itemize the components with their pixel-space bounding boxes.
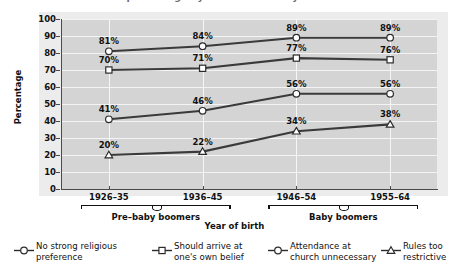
- data-point-label: 89%: [373, 23, 407, 33]
- legend-circle-icon: [268, 241, 290, 252]
- legend-circle-icon: [14, 241, 36, 252]
- data-point-label: 56%: [279, 79, 313, 89]
- legend-label: Attendance atchurch unnecessary: [290, 241, 376, 262]
- bracket-cap-right: [229, 205, 230, 209]
- data-point-marker: [159, 247, 165, 253]
- legend-item[interactable]: Rules toorestrictive: [381, 241, 446, 262]
- series-line: [109, 94, 390, 120]
- y-tick-mark: [56, 19, 60, 20]
- y-tick-mark: [56, 70, 60, 71]
- legend-label: Should arrive atone's own belief: [174, 241, 244, 262]
- y-tick-mark: [56, 53, 60, 54]
- data-point-marker: [387, 34, 394, 41]
- data-point-marker: [200, 65, 206, 71]
- data-point-marker: [387, 91, 394, 98]
- legend-item[interactable]: Attendance atchurch unnecessary: [268, 241, 376, 262]
- data-point-label: 76%: [373, 45, 407, 55]
- bracket-cap-left: [81, 205, 82, 209]
- legend-label-line2: one's own belief: [174, 252, 244, 263]
- data-point-marker: [199, 43, 206, 50]
- legend-square-icon: [152, 241, 174, 252]
- data-point-label: 71%: [186, 53, 220, 63]
- data-point-marker: [387, 57, 393, 63]
- series-2: [106, 55, 393, 73]
- legend-label: No strong religiouspreference: [36, 241, 117, 262]
- series-3: [106, 91, 394, 123]
- series-4: [105, 121, 394, 158]
- data-point-label: 84%: [186, 31, 220, 41]
- legend-label-line1: Should arrive at: [174, 241, 244, 252]
- series-line: [109, 124, 390, 155]
- y-tick-mark: [56, 172, 60, 173]
- data-point-label: 77%: [279, 43, 313, 53]
- legend-label: Rules toorestrictive: [403, 241, 446, 262]
- x-axis-title: Year of birth: [0, 221, 469, 231]
- data-point-label: 38%: [373, 109, 407, 119]
- data-point-label: 22%: [186, 137, 220, 147]
- data-point-label: 34%: [279, 116, 313, 126]
- data-point-marker: [293, 91, 300, 98]
- data-point-label: 41%: [92, 104, 126, 114]
- bracket-cap-right: [417, 205, 418, 209]
- data-point-marker: [293, 34, 300, 41]
- legend-label-line1: Attendance at: [290, 241, 376, 252]
- y-tick-mark: [56, 36, 60, 37]
- data-point-marker: [293, 55, 299, 61]
- chart-legend: No strong religiouspreferenceShould arri…: [0, 238, 469, 268]
- series-1: [106, 34, 394, 54]
- legend-label-line1: Rules too: [403, 241, 446, 252]
- series-line: [109, 58, 390, 70]
- legend-label-line1: No strong religious: [36, 241, 117, 252]
- legend-label-line2: preference: [36, 252, 117, 263]
- y-tick-mark: [56, 121, 60, 122]
- y-tick-mark: [56, 87, 60, 88]
- data-point-marker: [106, 67, 112, 73]
- legend-item[interactable]: Should arrive atone's own belief: [152, 241, 244, 262]
- data-point-label: 46%: [186, 96, 220, 106]
- bracket-cap-left: [268, 205, 269, 209]
- data-point-label: 20%: [92, 140, 126, 150]
- data-point-label: 89%: [279, 23, 313, 33]
- bracket-notch: [339, 205, 349, 211]
- y-tick-mark: [56, 155, 60, 156]
- legend-triangle-icon: [381, 241, 403, 252]
- data-point-marker: [275, 247, 282, 254]
- data-point-label: 56%: [373, 79, 407, 89]
- data-point-label: 70%: [92, 55, 126, 65]
- data-point-marker: [199, 108, 206, 115]
- legend-label-line2: church unnecessary: [290, 252, 376, 263]
- data-point-marker: [106, 116, 113, 123]
- bracket-notch: [152, 205, 162, 211]
- y-tick-mark: [56, 138, 60, 139]
- data-point-label: 81%: [92, 36, 126, 46]
- legend-item[interactable]: No strong religiouspreference: [14, 241, 117, 262]
- y-tick-mark: [56, 104, 60, 105]
- data-point-marker: [21, 247, 28, 254]
- data-point-marker: [106, 48, 113, 55]
- series-line: [109, 38, 390, 52]
- y-tick-mark: [56, 189, 60, 190]
- legend-label-line2: restrictive: [403, 252, 446, 263]
- chart-figure: percentage by decade and baby boomer 010…: [0, 0, 469, 268]
